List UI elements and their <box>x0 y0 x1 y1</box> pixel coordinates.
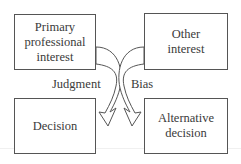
conflict-of-interest-diagram: Primary professional interest Other inte… <box>0 0 241 164</box>
other-interest-box: Other interest <box>144 13 228 70</box>
box-line: interest <box>168 42 205 57</box>
alternative-decision-box: Alternative decision <box>144 98 228 154</box>
primary-professional-interest-box: Primary professional interest <box>14 14 96 70</box>
box-line: Alternative <box>158 111 214 126</box>
bias-label: Bias <box>131 77 153 91</box>
box-line: decision <box>158 126 214 141</box>
box-line: interest <box>24 50 85 65</box>
box-line: professional <box>24 35 85 50</box>
box-line: Decision <box>33 119 77 134</box>
box-line: Primary <box>24 20 85 35</box>
judgment-label: Judgment <box>52 77 101 91</box>
decision-box: Decision <box>14 98 96 154</box>
box-line: Other <box>168 27 205 42</box>
